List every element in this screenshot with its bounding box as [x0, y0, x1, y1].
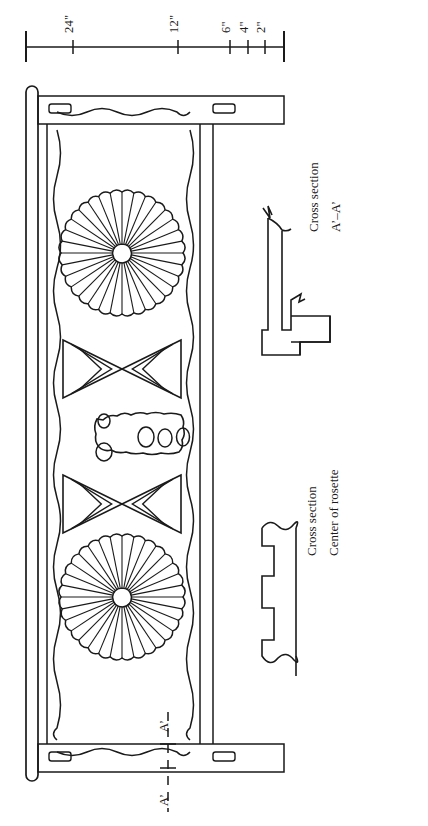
center-motif-oval-2	[158, 429, 172, 447]
drawing-canvas: 24"12"6"4"2"	[0, 0, 428, 826]
rosette-hub	[113, 588, 132, 607]
scale-label-2: 2"	[254, 21, 268, 33]
cross-section-aa-step	[300, 316, 330, 355]
graphic-scale: 24"12"6"4"2"	[26, 15, 284, 62]
bowtie-left-triangle	[63, 340, 122, 398]
center-motif-oval-1	[138, 427, 154, 447]
top-rail-mortise-1	[49, 104, 71, 113]
section-line-a: A’ A’	[156, 712, 176, 812]
center-motif	[95, 413, 190, 462]
scale-label-24: 24"	[62, 15, 76, 33]
bowtie-right-triangle	[122, 475, 181, 533]
panel-left-stile	[26, 86, 38, 781]
top-rail-mortise-2	[213, 104, 235, 113]
cross-section-rosette-profile	[262, 522, 298, 663]
cross-section-rosette-title-1: Cross section	[304, 486, 319, 556]
cross-section-rosette-title-2: Center of rosette	[326, 469, 341, 556]
rosette-hub	[113, 244, 132, 263]
scallop-border-top	[57, 109, 190, 116]
section-label-a-lower: A’	[156, 794, 171, 806]
bowtie-upper	[63, 340, 181, 398]
bowtie-right-chevron	[132, 344, 173, 394]
scale-label-6: 6"	[219, 21, 233, 33]
carved-panel-elevation	[26, 86, 284, 781]
cross-section-aa: Cross section A’–A’	[262, 162, 343, 355]
bowtie-left-triangle	[63, 475, 122, 533]
drawing-sheet: 24"12"6"4"2"	[0, 0, 428, 826]
section-label-a-upper: A’	[156, 720, 171, 732]
cross-section-rosette: Cross section Center of rosette	[262, 469, 341, 676]
rosette-lower	[59, 534, 185, 660]
bowtie-right-triangle	[122, 340, 181, 398]
bowtie-right-chevron	[132, 479, 173, 529]
bowtie-left-chevron	[79, 348, 101, 389]
scallop-border-left	[54, 130, 61, 740]
scale-label-group: 24"12"6"4"2"	[62, 15, 268, 33]
center-motif-knob-bottom	[96, 443, 112, 461]
bowtie-left-chevron	[71, 479, 112, 529]
rosette-upper	[59, 190, 185, 316]
panel-top-rail	[38, 96, 284, 124]
bowtie-left-chevron	[79, 483, 101, 524]
bowtie-left-chevron	[71, 344, 112, 394]
bowtie-lower	[63, 475, 181, 533]
cross-section-aa-title-1: Cross section	[306, 162, 321, 232]
cross-section-aa-title-2: A’–A’	[328, 201, 343, 232]
scale-label-12: 12"	[167, 15, 181, 33]
bowtie-right-chevron	[143, 348, 165, 389]
center-motif-knob-top	[98, 414, 110, 428]
top-rail-outline	[38, 96, 284, 124]
bottom-rail-mortise-2	[213, 752, 235, 761]
cross-section-aa-profile-lower	[268, 218, 330, 342]
scale-label-4: 4"	[237, 21, 251, 33]
bowtie-right-chevron	[143, 483, 165, 524]
scallop-border-bottom	[57, 749, 190, 756]
